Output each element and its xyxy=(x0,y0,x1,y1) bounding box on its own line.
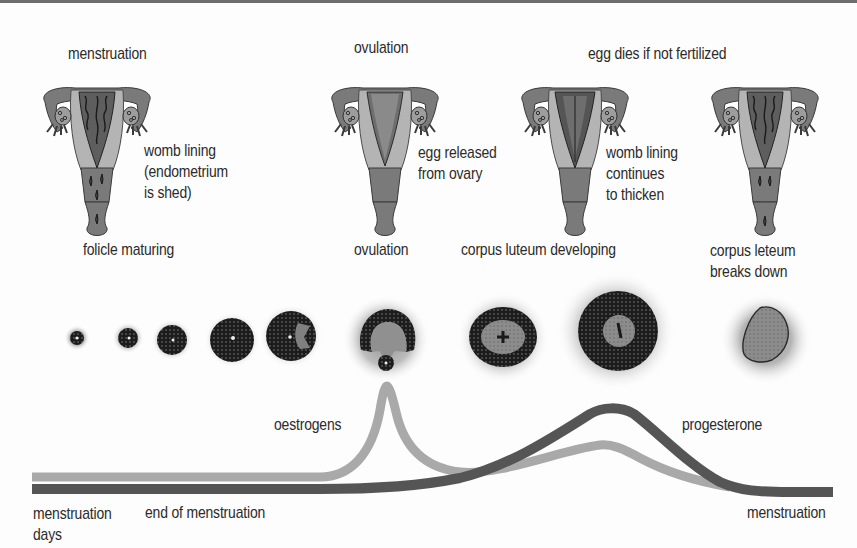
follicle-label-corpus-luteum-breakdown: corpus leteum breaks down xyxy=(710,240,795,282)
note-egg-released: egg released from ovary xyxy=(418,142,497,184)
hormone-label-oestrogens: oestrogens xyxy=(274,415,341,435)
stage-label-ovulation: ovulation xyxy=(354,38,408,58)
follicle-label-ovulation: ovulation xyxy=(354,240,408,260)
stage-label-menstruation: menstruation xyxy=(68,44,147,64)
oestrogen-curve xyxy=(32,386,730,487)
note-womb-lining-shed: womb lining (endometrium is shed) xyxy=(144,140,228,203)
follicle-4 xyxy=(204,312,260,368)
follicle-2 xyxy=(112,322,144,354)
follicle-5 xyxy=(259,304,323,368)
uterus-menstruation xyxy=(44,88,150,236)
hormone-label-progesterone: progesterone xyxy=(682,415,762,435)
follicle-3 xyxy=(151,319,193,361)
follicle-label-corpus-luteum-developing: corpus luteum developing xyxy=(461,240,616,260)
timeline-start-label: menstruation days xyxy=(33,503,112,545)
corpus-luteum-breakdown xyxy=(720,293,812,385)
follicle-1 xyxy=(64,325,90,351)
stage-label-egg-dies: egg dies if not fertilized xyxy=(588,44,726,64)
follicle-label-maturing: folicle maturing xyxy=(83,240,174,260)
uterus-breakdown xyxy=(712,88,818,236)
corpus-luteum-mature xyxy=(556,271,676,391)
follicle-ovulation xyxy=(342,295,430,383)
timeline-end-label: menstruation xyxy=(747,503,826,523)
corpus-luteum-developing xyxy=(457,292,549,384)
timeline-mid-label: end of menstruation xyxy=(145,503,265,523)
note-womb-thickens: womb lining continues to thicken xyxy=(606,142,678,205)
diagram-canvas: menstruation ovulation egg dies if not f… xyxy=(0,0,857,548)
